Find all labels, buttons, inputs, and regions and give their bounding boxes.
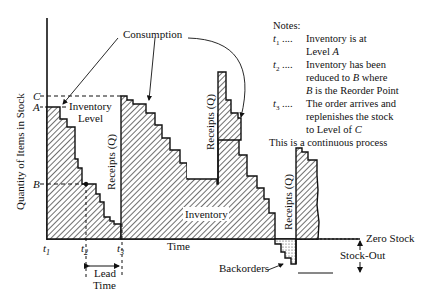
note-t1-mark: t1 .... bbox=[273, 32, 293, 50]
note-t2-mark: t2 .... bbox=[273, 58, 293, 76]
notes-footer: This is a continuous process bbox=[269, 136, 387, 149]
receipts-label-1: Receipts (Q) bbox=[105, 134, 118, 190]
consumption-arrow-2 bbox=[149, 38, 155, 100]
note-t1-line2: Level A bbox=[306, 45, 339, 58]
notes-title: Notes: bbox=[273, 19, 300, 32]
inventory-level-label-2: Level bbox=[78, 112, 103, 124]
backorders-area bbox=[275, 239, 296, 264]
inventory-label: Inventory bbox=[185, 208, 228, 220]
note-t3-mark: t3 .... bbox=[273, 97, 293, 115]
inventory-segment-3 bbox=[296, 148, 319, 264]
inventory-diagram: Quantity of Items in Stock C A B Consump… bbox=[0, 0, 431, 301]
note-t2-line2: reduced to B where bbox=[306, 71, 387, 84]
note-t2-line3: B is the Reorder Point bbox=[306, 84, 399, 97]
level-b-label: B bbox=[33, 178, 40, 190]
receipts-label-2: Receipts (Q) bbox=[204, 94, 217, 150]
t3-label: t3 bbox=[117, 242, 124, 257]
lead-time-label-1: Lead bbox=[94, 267, 116, 279]
receipts-label-3: Receipts (Q) bbox=[282, 174, 295, 230]
level-a-label: A bbox=[32, 101, 40, 113]
note-t3-line2: replenishes the stock bbox=[306, 110, 393, 123]
backorders-label: Backorders bbox=[219, 262, 269, 274]
time-axis-label: Time bbox=[167, 240, 190, 252]
lead-time-label-2: Time bbox=[93, 279, 116, 291]
y-axis-label: Quantity of Items in Stock bbox=[14, 93, 26, 210]
consumption-label: Consumption bbox=[123, 28, 183, 40]
note-t1-line1: Inventory is at bbox=[306, 32, 367, 45]
t1-label: t1 bbox=[43, 242, 50, 257]
note-t3-line3: to Level of C bbox=[306, 123, 362, 136]
zero-stock-label: Zero Stock bbox=[366, 232, 415, 244]
note-t2-line1: Inventory has been bbox=[306, 58, 386, 71]
t2-label: t2 bbox=[81, 242, 88, 257]
inventory-level-label-1: Inventory bbox=[69, 100, 112, 112]
note-t3-line1: The order arrives and bbox=[306, 97, 396, 110]
backorders-arrow bbox=[268, 264, 283, 270]
consumption-arrow-1 bbox=[63, 38, 118, 104]
stock-out-label: Stock-Out bbox=[340, 249, 385, 261]
